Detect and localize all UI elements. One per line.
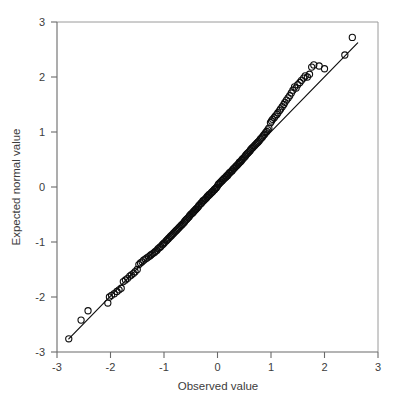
y-tick-label: -3 [35,346,45,358]
y-tick-label: -1 [35,236,45,248]
x-axis-ticks: -3-2-10123 [52,352,381,373]
data-point [78,317,84,323]
y-tick-label: 1 [39,126,45,138]
y-tick-label: 3 [39,16,45,28]
data-point [321,66,327,72]
y-axis-title: Expected normal value [10,129,22,246]
x-tick-label: 0 [214,361,220,373]
x-tick-label: 2 [321,361,327,373]
x-tick-label: -3 [52,361,62,373]
data-point [105,300,111,306]
x-tick-label: 3 [375,361,381,373]
x-axis-title: Observed value [178,380,259,392]
y-tick-label: 2 [39,71,45,83]
x-tick-label: -2 [106,361,116,373]
scatter-points [66,34,356,342]
plot-canvas: -3-2-10123 -3-2-10123 Observed value Exp… [0,0,402,412]
data-point [85,308,91,314]
data-point [349,34,355,40]
y-tick-label: 0 [39,181,45,193]
data-point [342,52,348,58]
qq-plot-figure: -3-2-10123 -3-2-10123 Observed value Exp… [0,0,402,412]
y-axis-ticks: -3-2-10123 [35,16,57,358]
x-tick-label: 1 [268,361,274,373]
y-tick-label: -2 [35,291,45,303]
x-tick-label: -1 [159,361,169,373]
